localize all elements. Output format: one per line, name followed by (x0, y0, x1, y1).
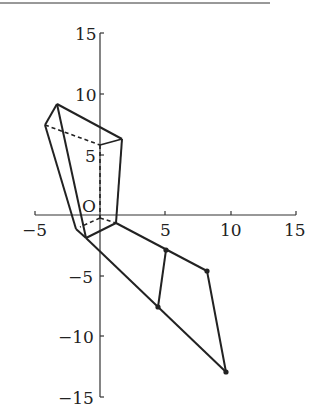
diagram-canvas: −5 5 10 15 15 10 5 −5 −10 −15 O (0, 0, 319, 412)
y-tick-label: 10 (75, 85, 97, 105)
point (204, 268, 209, 273)
x-tick-label: 5 (160, 220, 171, 240)
origin-label: O (82, 196, 96, 216)
point (155, 304, 160, 309)
top-face-edge (45, 104, 122, 145)
x-tick-label: −5 (22, 220, 47, 240)
y-tick-label: −5 (68, 267, 93, 287)
y-tick-label: 5 (85, 146, 96, 166)
point (223, 369, 228, 374)
tick-labels: −5 5 10 15 15 10 5 −5 −10 −15 O (22, 24, 306, 408)
x-tick-label: 10 (220, 220, 242, 240)
marked-points (155, 247, 228, 374)
x-tick-label: 15 (284, 220, 306, 240)
y-tick-label: −15 (58, 388, 94, 408)
y-tick-label: 15 (75, 24, 97, 44)
y-tick-label: −10 (58, 327, 94, 347)
point (163, 247, 168, 252)
